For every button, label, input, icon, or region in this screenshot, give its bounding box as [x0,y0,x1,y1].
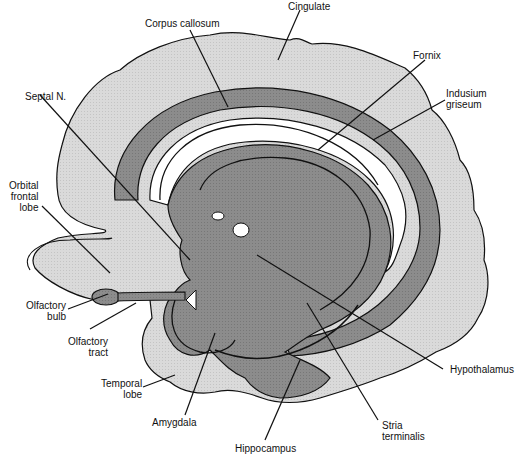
label-septal-n: Septal N. [25,91,66,102]
limbic-system-diagram [0,0,518,460]
label-corpus-callosum: Corpus callosum [145,18,219,29]
label-fornix: Fornix [413,50,441,61]
label-amygdala: Amygdala [152,417,196,428]
label-olfactory-bulb: Olfactory bulb [26,300,66,322]
label-cingulate: Cingulate [288,1,330,12]
label-olfactory-tract: Olfactory tract [68,336,108,358]
olfactory-tract-shape [118,292,185,301]
label-indusium-griseum: Indusium griseum [446,88,487,110]
label-stria-terminalis: Stria terminalis [382,420,425,442]
anterior-commissure-hole [233,223,249,237]
label-hippocampus: Hippocampus [235,443,296,454]
olfactory-bulb-shape [92,289,120,305]
label-orbital-frontal-lobe: Orbital frontal lobe [9,180,38,213]
label-hypothalamus: Hypothalamus [450,364,514,375]
label-temporal-lobe: Temporal lobe [101,378,142,400]
